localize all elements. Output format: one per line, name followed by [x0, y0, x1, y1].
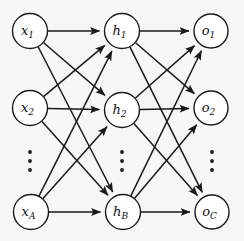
vertical-ellipsis-icon-input [28, 150, 32, 172]
edge-x2-to-h1 [44, 45, 105, 96]
ellipsis-dot-input-1 [28, 150, 32, 154]
ellipsis-dot-output-3 [210, 168, 214, 172]
edge-h2-to-o1 [135, 46, 194, 98]
ellipsis-dot-input-3 [28, 168, 32, 172]
node-o1[interactable]: o1 [194, 14, 228, 48]
vertical-ellipsis-icon-output [210, 150, 214, 172]
edge-x1-to-h2 [44, 43, 105, 96]
node-hB[interactable]: hB [106, 195, 141, 230]
vertical-ellipsis-icon-hidden [120, 150, 124, 172]
edge-x1-to-hB [38, 47, 112, 192]
edge-h1-to-o2 [136, 43, 195, 94]
network-svg: x1x2xAh1h2hBo1o2oC [0, 0, 244, 241]
node-x2[interactable]: x2 [13, 91, 48, 126]
node-oC[interactable]: oC [195, 195, 229, 229]
neural-network-diagram: x1x2xAh1h2hBo1o2oC [0, 0, 244, 241]
ellipsis-dot-input-2 [28, 159, 32, 163]
ellipsis-dot-hidden-1 [120, 150, 124, 154]
edge-hB-to-o1 [131, 51, 202, 196]
edge-xA-to-h1 [39, 51, 112, 196]
node-xA[interactable]: xA [14, 195, 49, 230]
node-x1[interactable]: x1 [13, 14, 48, 49]
edge-x2-to-hB [42, 121, 108, 195]
ellipsis-dot-output-2 [210, 159, 214, 163]
ellipsis-dot-output-1 [210, 150, 214, 154]
node-o2[interactable]: o2 [194, 91, 228, 125]
node-h1[interactable]: h1 [105, 14, 140, 49]
node-h2[interactable]: h2 [105, 93, 140, 128]
ellipsis-dot-hidden-3 [120, 168, 124, 172]
ellipsis-dot-hidden-2 [120, 159, 124, 163]
edge-x2-to-h2 [48, 108, 100, 109]
edge-h2-to-o2 [140, 108, 189, 109]
